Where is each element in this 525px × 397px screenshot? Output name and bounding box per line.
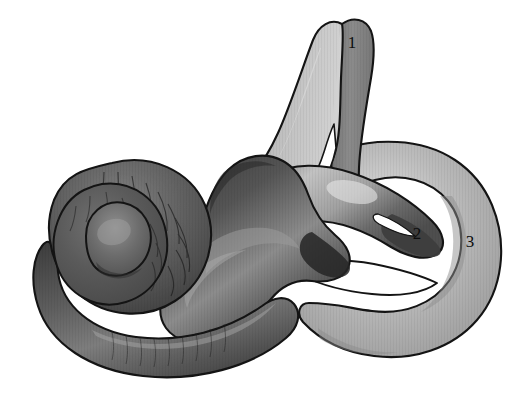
label-2: 2 xyxy=(413,224,422,243)
label-1: 1 xyxy=(348,33,357,52)
cochlea xyxy=(49,160,211,313)
figure-canvas: 1 2 3 xyxy=(0,0,525,397)
label-3: 3 xyxy=(466,232,475,251)
bony-labyrinth-illustration: 1 2 3 xyxy=(0,0,525,397)
